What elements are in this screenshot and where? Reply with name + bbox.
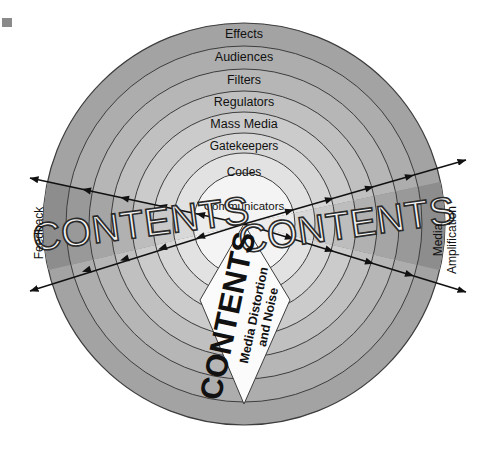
ring-label-audiences: Audiences [215,50,273,64]
ring-label-gatekeepers: Gatekeepers [210,139,279,153]
ring-label-codes: Codes [227,165,262,179]
concentric-media-diagram: Effects Audiences Filters Regulators Mas… [0,0,489,452]
ring-label-mass-media: Mass Media [210,117,277,131]
ring-label-regulators: Regulators [214,95,274,109]
ring-label-effects: Effects [225,27,263,41]
media-amplification-line2: Amplification [445,206,459,274]
media-amplification-line1: Media [431,223,445,256]
ring-label-filters: Filters [227,73,261,87]
diagram-canvas: Effects Audiences Filters Regulators Mas… [0,0,489,452]
feedback-label: Feedback [32,206,46,260]
